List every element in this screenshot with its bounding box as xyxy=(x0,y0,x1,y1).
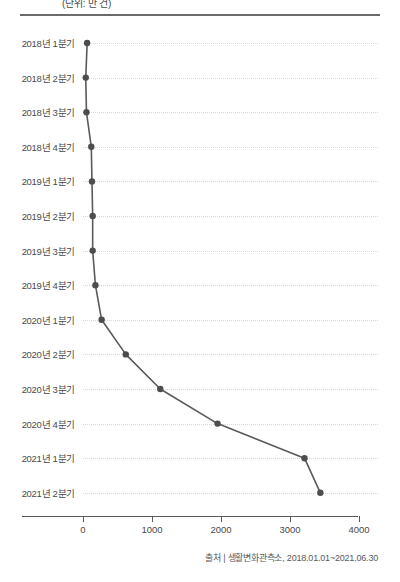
grid-line xyxy=(83,78,378,80)
grid-line xyxy=(83,424,378,426)
grid-line xyxy=(83,285,378,287)
source-note: 출처 | 생활변화관측소, 2018.01.01~2021.06.30 xyxy=(205,551,378,564)
category-label: 2018년 2분기 xyxy=(8,71,75,85)
grid-line xyxy=(83,147,378,149)
category-label: 2018년 4분기 xyxy=(8,140,75,154)
x-axis-tick xyxy=(152,516,153,522)
x-axis-tick xyxy=(359,516,360,522)
grid-line xyxy=(83,43,378,45)
value-axis-line xyxy=(22,516,358,517)
x-axis-tick-label: 3000 xyxy=(279,524,300,535)
grid-line xyxy=(83,216,378,218)
category-label: 2018년 1분기 xyxy=(8,36,75,50)
x-axis-tick xyxy=(290,516,291,522)
category-label: 2020년 3분기 xyxy=(8,382,75,396)
grid-line xyxy=(83,181,378,183)
chart-plot-area: 2018년 1분기2018년 2분기2018년 3분기2018년 4분기2019… xyxy=(0,0,400,582)
x-axis-tick-label: 2000 xyxy=(210,524,231,535)
grid-line xyxy=(83,389,378,391)
grid-line xyxy=(83,251,378,253)
category-label: 2020년 4분기 xyxy=(8,417,75,431)
category-label: 2018년 3분기 xyxy=(8,105,75,119)
x-axis-tick-label: 0 xyxy=(80,524,85,535)
grid-line xyxy=(83,320,378,322)
category-label: 2021년 1분기 xyxy=(8,451,75,465)
category-label: 2019년 2분기 xyxy=(8,209,75,223)
category-label: 2019년 4분기 xyxy=(8,278,75,292)
category-label: 2019년 3분기 xyxy=(8,244,75,258)
x-axis-tick-label: 4000 xyxy=(348,524,369,535)
category-label: 2020년 2분기 xyxy=(8,347,75,361)
x-axis-tick xyxy=(221,516,222,522)
category-label: 2020년 1분기 xyxy=(8,313,75,327)
grid-line xyxy=(83,112,378,114)
grid-line xyxy=(83,493,378,495)
grid-line xyxy=(83,458,378,460)
x-axis-tick-label: 1000 xyxy=(141,524,162,535)
category-label: 2019년 1분기 xyxy=(8,174,75,188)
category-label: 2021년 2분기 xyxy=(8,486,75,500)
grid-line xyxy=(83,354,378,356)
x-axis-tick xyxy=(83,516,84,522)
